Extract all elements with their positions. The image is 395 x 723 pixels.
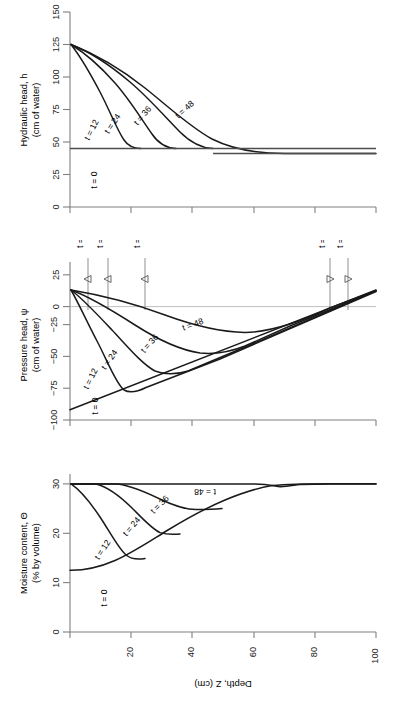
mid-marker-label-t24: t = 24 — [75, 240, 85, 248]
top-ytick-75: 75 — [51, 104, 61, 114]
curve-label-t12-top: t = 12 — [82, 118, 101, 142]
mid-markers-right: t = 48 t = 0–36 — [317, 240, 352, 310]
mid-ytick-neg75: −75 — [49, 380, 59, 396]
bot-ytick-0: 0 — [51, 629, 61, 634]
top-ytick-25: 25 — [51, 169, 61, 179]
top-axes — [70, 12, 376, 207]
top-ytick-100: 100 — [51, 69, 61, 84]
mid-x-ticks — [70, 420, 376, 426]
xtick-100: 100 — [370, 648, 380, 663]
top-yaxis-title-line1: Hydraulic head, h — [18, 74, 29, 147]
xtick-20: 20 — [125, 647, 135, 657]
curve-label-t0-top: t = 0 — [89, 171, 99, 188]
mid-ytick-neg50: −50 — [49, 349, 59, 365]
moisture-content-panel: 0 10 20 30 20 40 60 80 100 Depth, Z (cm)… — [0, 470, 395, 723]
mid-ytick-0: 0 — [51, 304, 61, 309]
mid-yaxis-title-line1: Pressure head, ψ — [18, 308, 29, 381]
curve-label-t0-mid: t = 0 — [90, 397, 100, 414]
curve-t48-top — [71, 45, 376, 154]
hydraulic-head-plot: 0 25 50 75 100 125 150 Hydraulic head, h… — [0, 0, 395, 240]
top-x-ticks — [70, 207, 376, 213]
top-ytick-50: 50 — [51, 137, 61, 147]
bot-x-ticks — [70, 632, 376, 638]
pressure-head-plot: −100 −75 −50 −25 0 25 Pressure head, ψ (… — [0, 240, 395, 470]
bot-ytick-20: 20 — [51, 528, 61, 538]
curve-label-t48-top: t = 48 — [173, 98, 196, 120]
bot-ytick-30: 30 — [51, 479, 61, 489]
curve-t0-bot — [70, 484, 376, 571]
moisture-content-plot: 0 10 20 30 20 40 60 80 100 Depth, Z (cm)… — [0, 470, 395, 723]
mid-yaxis-title-line2: (cm of water) — [30, 318, 41, 373]
mid-markers-left: t = 24 t = 36 t = 48 — [75, 240, 148, 310]
mid-y-tick-labels: −100 −75 −50 −25 0 25 — [49, 270, 61, 431]
xaxis-title: Depth, Z (cm) — [194, 679, 251, 690]
mid-marker-label-t0-36: t = 0–36 — [335, 240, 345, 248]
top-yaxis-title-line2: (cm of water) — [30, 83, 41, 138]
mid-ytick-neg100: −100 — [49, 410, 59, 431]
xtick-80: 80 — [309, 647, 319, 657]
top-ytick-0: 0 — [51, 204, 61, 209]
curve-label-t12-bot: t = 12 — [92, 538, 112, 562]
curve-label-t48-mid: t = 48 — [181, 316, 205, 333]
xtick-40: 40 — [186, 647, 196, 657]
curve-label-t36-top: t = 36 — [132, 104, 154, 127]
bot-y-ticks — [63, 484, 70, 632]
mid-marker-label-t48-left: t = 48 — [132, 240, 142, 248]
curve-label-t36-bot: t = 36 — [148, 493, 171, 516]
bot-yaxis-title-line2: (% by volume) — [30, 523, 41, 583]
bot-axes — [70, 474, 376, 632]
mid-ytick-25: 25 — [51, 270, 61, 280]
pressure-head-panel: −100 −75 −50 −25 0 25 Pressure head, ψ (… — [0, 240, 395, 470]
curve-label-t24-bot: t = 24 — [121, 515, 143, 538]
top-ytick-150: 150 — [51, 4, 61, 19]
mid-y-ticks — [63, 275, 70, 420]
mid-marker-label-t48-right: t = 48 — [317, 240, 327, 248]
top-ytick-125: 125 — [51, 37, 61, 52]
bot-y-tick-labels: 0 10 20 30 — [51, 479, 61, 635]
bot-x-tick-labels: 20 40 60 80 100 — [125, 647, 380, 664]
mid-ytick-neg25: −25 — [49, 317, 59, 333]
xtick-60: 60 — [248, 647, 258, 657]
curve-label-t48-bot: t = 48 — [194, 487, 216, 497]
curve-label-t12-mid: t = 12 — [81, 367, 100, 391]
top-y-ticks — [63, 12, 70, 207]
bot-yaxis-title-line1: Moisture content, Θ — [18, 512, 29, 594]
bot-ytick-10: 10 — [51, 577, 61, 587]
hydraulic-head-panel: 0 25 50 75 100 125 150 Hydraulic head, h… — [0, 0, 395, 240]
curve-label-t0-bot: t = 0 — [99, 589, 109, 606]
curve-label-t36-mid: t = 36 — [138, 332, 160, 355]
top-y-tick-labels: 0 25 50 75 100 125 150 — [51, 4, 61, 209]
three-panel-soil-physics-figure: 0 25 50 75 100 125 150 Hydraulic head, h… — [0, 0, 395, 723]
mid-marker-label-t36: t = 36 — [95, 240, 105, 248]
